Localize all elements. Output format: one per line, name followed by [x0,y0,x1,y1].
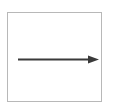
right-arrow-icon [0,0,113,107]
